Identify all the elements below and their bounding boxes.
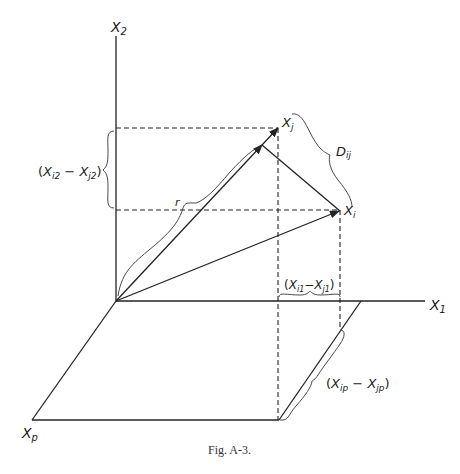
x2-axis-label: X2 [110,19,127,37]
dij-segment [262,145,340,211]
brace-dij [292,114,352,207]
xp-axis [32,301,116,420]
diffp-label: (Xip − Xjp) [326,376,390,393]
xi-point-label: Xi [343,203,356,220]
vector-to-xj [116,145,262,301]
figure-caption: Fig. A-3. [208,443,251,457]
distance-diagram: X2 X1 Xp Xj Xi r Dij (Xi2 − Xj2) (Xi1−Xj… [0,0,460,474]
xp-axis-label: Xp [21,425,38,443]
brace-diff2 [103,131,114,208]
r-label: r [175,196,181,209]
xj-point-label: Xj [281,115,294,132]
diff1-label: (Xi1−Xj1) [284,278,335,294]
diff2-label: (Xi2 − Xj2) [38,164,102,181]
dij-label: Dij [336,144,352,160]
vector-to-xj-ext [262,128,278,145]
x1-axis-label: X1 [429,297,446,315]
plane-right-edge [279,301,361,420]
